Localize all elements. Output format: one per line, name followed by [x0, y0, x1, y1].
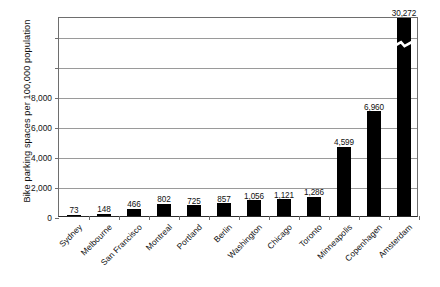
x-axis-tick	[89, 216, 90, 220]
bar-value-label: 4,599	[334, 138, 354, 147]
bar-value-label: 857	[217, 195, 230, 204]
x-axis-tick	[239, 216, 240, 220]
x-axis-tick	[269, 216, 270, 220]
bar-chart: Bike parking spaces per 100,000 populati…	[0, 0, 440, 287]
x-axis-tick	[149, 216, 150, 220]
plot-area: 02,0004,0006,0008,000 731484668027258571…	[58, 17, 418, 217]
x-axis-label: Chicago	[265, 222, 294, 251]
bar	[187, 205, 201, 216]
x-axis-tick	[179, 216, 180, 220]
x-axis-tick	[419, 216, 420, 220]
x-axis-label: Berlin	[212, 222, 234, 244]
bar-value-label: 1,121	[274, 191, 294, 200]
x-axis-tick	[299, 216, 300, 220]
bar-value-label: 1,286	[304, 188, 324, 197]
bar-value-label: 73	[70, 206, 79, 215]
bar	[247, 200, 261, 216]
bar	[127, 209, 141, 216]
x-axis-tick	[359, 216, 360, 220]
bar-value-label: 466	[127, 200, 140, 209]
gridline	[59, 98, 417, 99]
bar	[157, 204, 171, 216]
x-axis-tick	[389, 216, 390, 220]
y-axis-tick	[55, 38, 59, 39]
bar	[307, 197, 321, 216]
bar-value-label: 6,960	[364, 103, 384, 112]
x-axis-label: Sydney	[57, 222, 84, 249]
x-axis-label: Toronto	[297, 222, 324, 249]
bar-value-label: 1,056	[244, 192, 264, 201]
bar	[277, 199, 291, 216]
bar	[367, 111, 381, 216]
y-axis-tick	[55, 128, 59, 129]
gridline	[59, 188, 417, 189]
gridline-unlabeled	[59, 38, 417, 39]
gridline	[59, 128, 417, 129]
y-axis-tick-label: 6,000	[31, 123, 52, 133]
x-axis-tick	[329, 216, 330, 220]
x-axis-tick	[119, 216, 120, 220]
x-axis-tick	[209, 216, 210, 220]
y-axis-tick	[55, 98, 59, 99]
y-axis-tick-label: 2,000	[31, 183, 52, 193]
y-axis-tick-label: 0	[47, 213, 52, 223]
bar-value-label: 148	[97, 205, 110, 214]
bar-value-label: 30,272	[392, 9, 416, 18]
x-axis-label: Portland	[175, 222, 204, 251]
bar-value-label: 802	[157, 195, 170, 204]
y-axis-tick	[55, 188, 59, 189]
bar	[337, 147, 351, 216]
bar	[397, 18, 411, 217]
y-axis-tick	[55, 158, 59, 159]
bar	[217, 203, 231, 216]
gridline-unlabeled	[59, 68, 417, 69]
x-axis-label: Montreal	[144, 222, 174, 252]
gridline	[59, 158, 417, 159]
y-axis-tick	[55, 218, 59, 219]
y-axis-tick-label: 8,000	[31, 93, 52, 103]
y-axis-tick-label: 4,000	[31, 153, 52, 163]
bar-value-label: 725	[187, 197, 200, 206]
y-axis-tick	[55, 68, 59, 69]
